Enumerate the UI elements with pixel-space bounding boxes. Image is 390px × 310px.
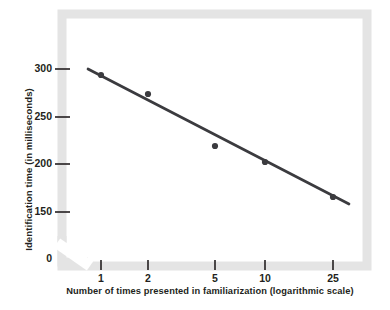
x-tick-label-2: 2: [136, 272, 160, 284]
x-axis-title: Number of times presented in familiariza…: [60, 286, 360, 296]
x-tick-label-5: 5: [203, 272, 227, 284]
chart-figure: 300 250 200 150 0 1 2 5 10 25 Identifica…: [0, 0, 390, 310]
x-tick-label-10: 10: [253, 272, 277, 284]
data-point-10: [262, 159, 268, 165]
x-tick-label-25: 25: [321, 272, 345, 284]
trend-line: [88, 69, 349, 204]
plot-frame: [57, 14, 367, 266]
plot-frame-border: [62, 14, 367, 266]
data-point-1: [98, 72, 104, 78]
data-point-25: [330, 194, 336, 200]
chart-canvas: [0, 0, 390, 310]
data-point-2: [145, 91, 151, 97]
x-tick-label-1: 1: [89, 272, 113, 284]
data-point-5: [212, 143, 218, 149]
y-axis-title: Identification time (in milliseconds): [23, 63, 34, 277]
